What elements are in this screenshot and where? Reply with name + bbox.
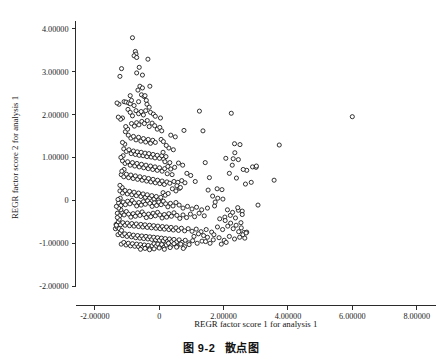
data-point (130, 36, 134, 40)
data-point (234, 176, 238, 180)
data-point (221, 197, 225, 201)
data-point (176, 161, 180, 165)
data-point (208, 241, 212, 245)
data-point (272, 178, 276, 182)
data-point (239, 221, 243, 225)
data-point (120, 140, 124, 144)
data-point (188, 212, 192, 216)
data-point (215, 225, 219, 229)
data-point (238, 143, 242, 147)
y-tick-label: -1.00000 (39, 239, 68, 248)
data-point (136, 88, 140, 92)
data-point (194, 227, 198, 231)
y-tick-label: 1.00000 (42, 153, 69, 162)
data-point (234, 223, 238, 227)
data-point (237, 230, 241, 234)
data-point (218, 217, 222, 221)
data-point (144, 109, 148, 113)
data-point (118, 183, 122, 187)
data-point (219, 242, 223, 246)
data-point (181, 163, 185, 167)
y-tick-label: 2.00000 (42, 111, 69, 120)
data-point (181, 206, 185, 210)
data-point (163, 160, 167, 164)
data-point (181, 246, 185, 250)
data-point (213, 204, 217, 208)
data-point (140, 73, 144, 77)
figure-caption: 图 9-2散点图 (0, 339, 442, 355)
data-point (114, 204, 118, 208)
data-point (190, 229, 194, 233)
x-tick-label: 8.00000 (403, 312, 430, 321)
data-point (172, 179, 176, 183)
data-point (203, 161, 207, 165)
data-point (193, 215, 197, 219)
data-point (241, 167, 245, 171)
data-point (171, 204, 175, 208)
data-point (144, 98, 148, 102)
data-point (166, 191, 170, 195)
data-point (116, 115, 120, 119)
data-point (179, 242, 183, 246)
data-point (221, 228, 225, 232)
data-point (115, 101, 119, 105)
data-point (215, 187, 219, 191)
data-point (192, 234, 196, 238)
data-point (205, 206, 209, 210)
data-points-layer (113, 36, 354, 252)
data-point (119, 155, 123, 159)
data-point (193, 179, 197, 183)
data-point (190, 207, 194, 211)
x-tick-label: 6.00000 (339, 312, 366, 321)
data-point (243, 236, 247, 240)
data-point (147, 125, 151, 129)
data-point (141, 113, 145, 117)
data-point (185, 204, 189, 208)
data-point (277, 143, 281, 147)
y-tick-label: -2.00000 (39, 282, 68, 291)
x-tick-label: 0 (157, 312, 161, 321)
data-point (233, 216, 237, 220)
data-point (350, 115, 354, 119)
data-point (170, 173, 174, 177)
scatter-plot-svg: -2.00000-1.0000001.000002.000003.000004.… (0, 0, 442, 363)
data-point (177, 203, 181, 207)
data-point (201, 129, 205, 133)
data-point (137, 65, 141, 69)
y-tick-label: 0 (64, 196, 68, 205)
data-point (229, 111, 233, 115)
data-point (171, 148, 175, 152)
data-point (147, 248, 151, 252)
data-point (216, 196, 220, 200)
data-point (212, 233, 216, 237)
data-point (178, 185, 182, 189)
data-point (224, 240, 228, 244)
data-point (202, 214, 206, 218)
data-point (146, 137, 150, 141)
data-point (153, 140, 157, 144)
data-point (128, 94, 132, 98)
data-point (143, 94, 147, 98)
data-point (130, 114, 134, 118)
data-point (164, 155, 168, 159)
data-point (227, 234, 231, 238)
data-point (254, 164, 258, 168)
data-point (197, 109, 201, 113)
data-point (115, 215, 119, 219)
data-point (232, 237, 236, 241)
data-point (135, 55, 139, 59)
data-point (239, 226, 243, 230)
data-point (185, 171, 189, 175)
data-point (211, 238, 215, 242)
x-tick-label: -2.00000 (80, 312, 109, 321)
y-tick-label: 3.00000 (42, 68, 69, 77)
data-point (211, 194, 215, 198)
data-point (202, 234, 206, 238)
data-point (162, 247, 166, 251)
data-point (145, 119, 149, 123)
data-point (256, 203, 260, 207)
data-point (160, 129, 164, 133)
data-point (206, 188, 210, 192)
data-point (197, 211, 201, 215)
data-point (229, 221, 233, 225)
